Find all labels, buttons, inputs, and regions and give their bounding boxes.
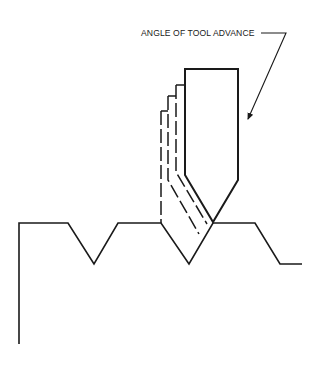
thread-cutting-diagram: [0, 0, 316, 369]
angle-of-tool-advance-label: ANGLE OF TOOL ADVANCE: [141, 28, 255, 38]
thread-profile: [19, 223, 302, 344]
leader-arrow: [248, 33, 286, 119]
